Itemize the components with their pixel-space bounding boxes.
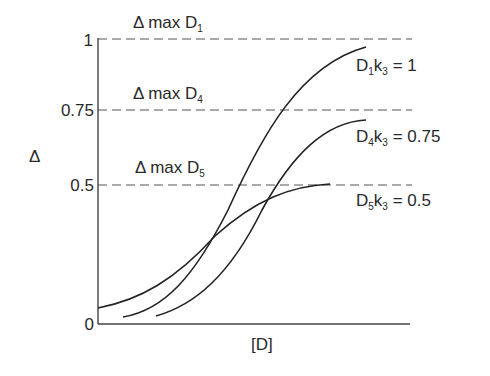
y-axis-title: Δ <box>29 147 40 167</box>
label-dmax-d1: Δ max D1 <box>133 13 203 34</box>
legend-d1: D1k3 = 1 <box>356 56 417 77</box>
label-dmax-d4: Δ max D4 <box>133 84 203 105</box>
x-axis-title: [D] <box>251 335 273 355</box>
y-tick-1: 1 <box>33 31 93 51</box>
y-tick-0-5: 0.5 <box>34 176 94 196</box>
curve-d4 <box>156 120 366 316</box>
curve-d5 <box>98 184 330 308</box>
legend-d4: D4k3 = 0.75 <box>356 127 440 148</box>
y-tick-0-75: 0.75 <box>34 101 94 121</box>
y-tick-0: 0 <box>34 315 94 335</box>
label-dmax-d5: Δ max D5 <box>135 158 205 179</box>
legend-d5: D5k3 = 0.5 <box>356 191 431 212</box>
